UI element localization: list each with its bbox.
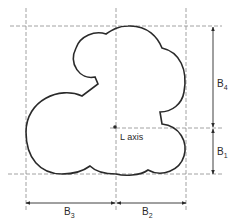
label-b1: B1 — [217, 146, 228, 159]
cloud-section-diagram: L axis B4 B1 B3 B2 — [0, 0, 231, 222]
label-b2: B2 — [142, 206, 153, 219]
label-b4: B4 — [217, 78, 228, 91]
axis-point — [113, 125, 117, 129]
axis-label: L axis — [120, 132, 144, 142]
section-outline — [26, 26, 185, 175]
label-b3: B3 — [64, 206, 75, 219]
guide-lines — [8, 8, 222, 212]
